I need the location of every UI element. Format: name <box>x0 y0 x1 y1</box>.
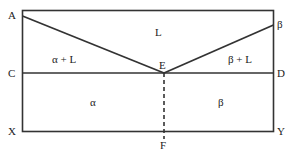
label-A: A <box>8 9 16 21</box>
label-Y: Y <box>277 125 285 137</box>
region-beta-liquid: β + L <box>228 53 252 65</box>
label-D: D <box>277 67 285 79</box>
label-B: β <box>277 18 283 30</box>
label-E: E <box>159 59 166 71</box>
region-beta: β <box>218 96 224 108</box>
label-C: C <box>8 67 15 79</box>
phase-diagram: A β C D E F X Y L α + L β + L α β <box>0 0 291 151</box>
liquidus-right-line <box>164 25 274 73</box>
label-F: F <box>160 139 166 151</box>
label-X: X <box>8 125 16 137</box>
region-alpha: α <box>90 96 96 108</box>
diagram-frame <box>23 11 274 132</box>
liquidus-left-line <box>23 16 165 73</box>
region-alpha-liquid: α + L <box>52 53 76 65</box>
region-liquid: L <box>155 26 162 38</box>
